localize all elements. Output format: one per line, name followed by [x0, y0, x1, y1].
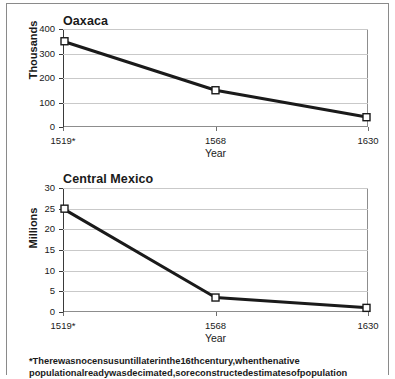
plot-area-wrapper: 01002003004001519*15681630 [63, 29, 368, 127]
x-axis-tick-label: 1630 [338, 320, 395, 331]
footnote: *Therewasnocensusuntillaterinthe16thcent… [29, 356, 377, 379]
series-line [63, 29, 368, 127]
plot-area-wrapper: 0510152025301519*15681630 [63, 188, 368, 312]
chart-title: Oaxaca [63, 14, 108, 28]
x-axis-tick [368, 312, 369, 316]
y-axis-tick-label: 100 [21, 97, 55, 108]
x-axis-tick-label: 1519* [33, 135, 93, 146]
y-axis-tick-label: 0 [21, 306, 55, 317]
chart-oaxaca: Oaxaca Thousands 01002003004001519*15681… [7, 4, 390, 169]
y-axis-tick-label: 300 [21, 48, 55, 59]
x-axis-tick [63, 312, 64, 316]
data-point-marker [212, 294, 219, 301]
footnote-line-2: populationalreadywasdecimated,soreconstr… [29, 368, 377, 379]
x-axis-tick [216, 127, 217, 131]
x-axis-tick-label: 1568 [186, 320, 246, 331]
x-axis-tick-label: 1568 [186, 135, 246, 146]
data-point-marker [61, 38, 68, 45]
y-axis-tick-label: 15 [21, 244, 55, 255]
y-axis-tick-label: 5 [21, 285, 55, 296]
y-axis-tick-label: 25 [21, 203, 55, 214]
data-point-marker [363, 114, 370, 121]
x-axis-tick-label: 1519* [33, 320, 93, 331]
figure-frame: Oaxaca Thousands 01002003004001519*15681… [6, 3, 389, 375]
series-line [63, 188, 368, 312]
chart-title: Central Mexico [63, 172, 153, 186]
data-point-marker [61, 205, 68, 212]
x-axis-tick [368, 127, 369, 131]
x-axis-tick-label: 1630 [338, 135, 395, 146]
y-axis-tick-label: 10 [21, 265, 55, 276]
x-axis-tick [63, 127, 64, 131]
x-axis-tick [216, 312, 217, 316]
y-axis-tick-label: 0 [21, 121, 55, 132]
x-axis-title: Year [63, 332, 368, 344]
y-axis-tick-label: 30 [21, 182, 55, 193]
footnote-line-1: *Therewasnocensusuntillaterinthe16thcent… [29, 356, 377, 368]
y-axis-tick-label: 400 [21, 23, 55, 34]
y-axis-tick-label: 20 [21, 223, 55, 234]
y-axis-tick-label: 200 [21, 72, 55, 83]
chart-central-mexico: Central Mexico Millions 0510152025301519… [7, 167, 390, 352]
data-point-marker [363, 304, 370, 311]
x-axis-title: Year [63, 147, 368, 159]
data-point-marker [212, 87, 219, 94]
